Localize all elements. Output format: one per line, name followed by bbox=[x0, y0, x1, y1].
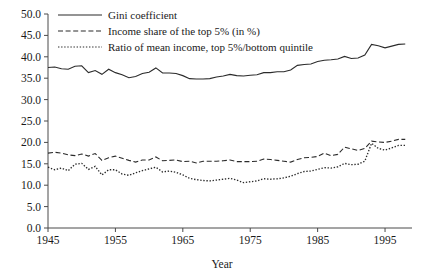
legend-label: Ratio of mean income, top 5%/bottom quin… bbox=[108, 41, 313, 53]
y-tick-label: 40.0 bbox=[21, 51, 41, 63]
chart-container: 0.05.010.015.020.025.030.035.040.045.050… bbox=[0, 0, 425, 273]
y-tick-label: 0.0 bbox=[27, 222, 42, 234]
legend-label: Income share of the top 5% (in %) bbox=[108, 25, 260, 38]
data-series-group bbox=[48, 44, 405, 183]
legend-label: Gini coefficient bbox=[108, 9, 177, 21]
x-tick-label: 1965 bbox=[171, 234, 194, 246]
chart-legend: Gini coefficientIncome share of the top … bbox=[58, 9, 313, 53]
line-chart: 0.05.010.015.020.025.030.035.040.045.050… bbox=[0, 0, 425, 273]
y-tick-label: 25.0 bbox=[21, 115, 41, 127]
x-tick-label: 1945 bbox=[37, 234, 60, 246]
series-line-dotted bbox=[48, 143, 405, 182]
y-tick-label: 30.0 bbox=[21, 94, 41, 106]
y-tick-label: 50.0 bbox=[21, 8, 41, 20]
x-tick-label: 1985 bbox=[306, 234, 329, 246]
y-tick-label: 10.0 bbox=[21, 179, 41, 191]
y-tick-label: 35.0 bbox=[21, 72, 41, 84]
y-axis-ticks: 0.05.010.015.020.025.030.035.040.045.050… bbox=[21, 8, 48, 234]
series-line-dashed bbox=[48, 139, 405, 163]
y-tick-label: 20.0 bbox=[21, 136, 41, 148]
x-tick-label: 1975 bbox=[239, 234, 262, 246]
y-tick-label: 15.0 bbox=[21, 158, 41, 170]
x-tick-label: 1995 bbox=[374, 234, 397, 246]
x-axis-title: Year bbox=[211, 258, 232, 270]
x-axis-ticks: 194519551965197519851995 bbox=[37, 228, 397, 246]
x-tick-label: 1955 bbox=[104, 234, 127, 246]
y-tick-label: 45.0 bbox=[21, 29, 41, 41]
y-tick-label: 5.0 bbox=[27, 201, 42, 213]
